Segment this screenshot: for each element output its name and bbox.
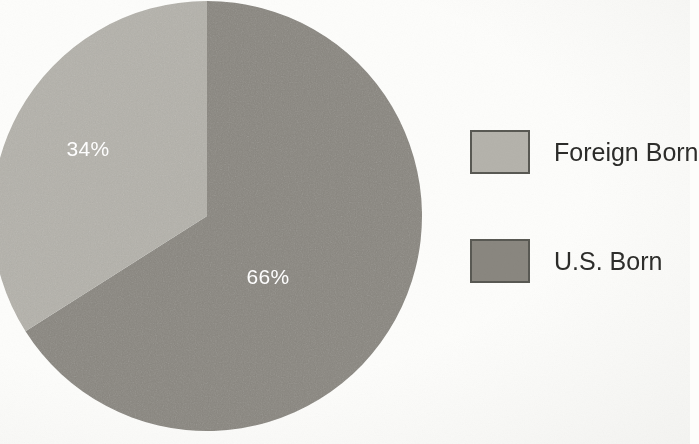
legend-swatch-us-born <box>470 239 530 283</box>
pie-chart-plot-area: 66% 34% <box>0 0 440 444</box>
pie-slice-label-foreign-born: 34% <box>66 137 109 160</box>
pie-slice-label-us-born: 66% <box>246 265 289 288</box>
pie-chart-svg: 66% 34% <box>0 0 440 444</box>
chart-legend: Foreign Born U.S. Born <box>470 130 690 315</box>
legend-label-foreign-born: Foreign Born <box>554 140 699 165</box>
pie-slices-group <box>0 1 422 431</box>
legend-item-foreign-born[interactable]: Foreign Born <box>470 130 699 174</box>
legend-swatch-foreign-born <box>470 130 530 174</box>
legend-item-us-born[interactable]: U.S. Born <box>470 239 662 283</box>
legend-label-us-born: U.S. Born <box>554 249 662 274</box>
